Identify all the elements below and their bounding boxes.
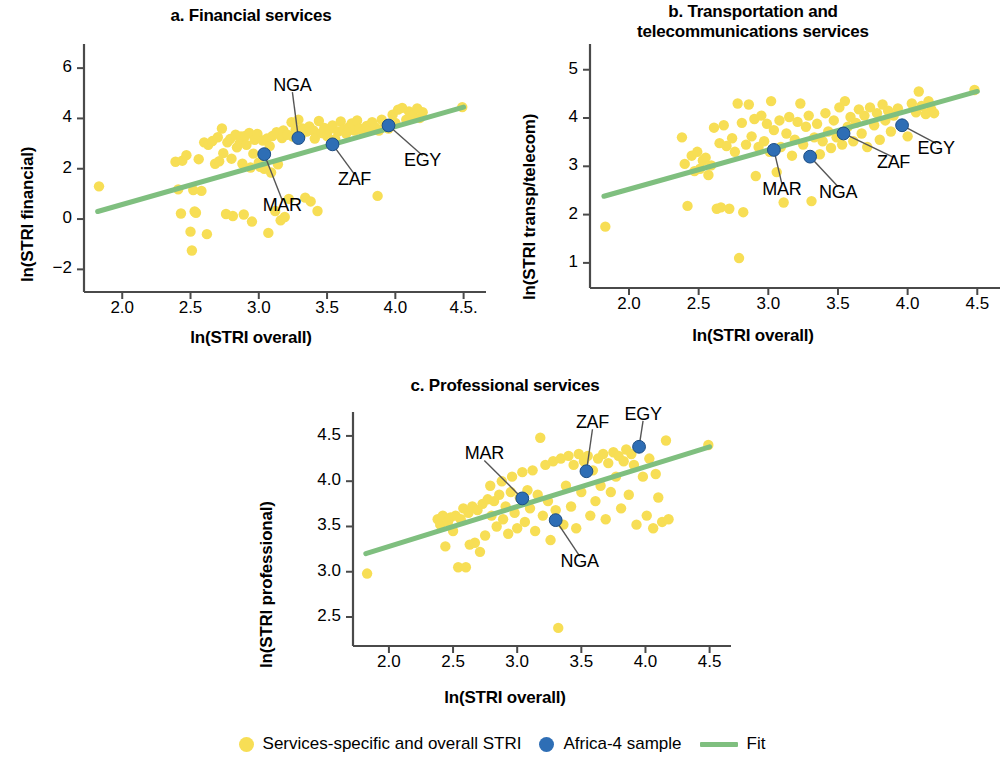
scatter-point-africa4 — [896, 119, 909, 132]
x-tick-label: 2.5 — [161, 298, 221, 318]
scatter-point-services — [196, 186, 206, 196]
scatter-point-services — [566, 501, 576, 511]
scatter-point-africa4 — [292, 132, 305, 145]
scatter-point-services — [194, 154, 204, 164]
x-tick-label: 2.0 — [92, 298, 152, 318]
scatter-point-services — [781, 128, 791, 138]
country-label-egy: EGY — [401, 150, 445, 171]
scatter-point-services — [840, 96, 850, 106]
scatter-point-africa4 — [580, 465, 593, 478]
scatter-point-services — [228, 211, 238, 221]
scatter-point-services — [305, 196, 315, 206]
legend-label-fit: Fit — [747, 734, 766, 754]
scatter-point-services — [530, 526, 540, 536]
x-tick-label: 3.5 — [808, 294, 868, 314]
x-tick-label: 2.5 — [669, 294, 729, 314]
country-label-mar: MAR — [760, 179, 804, 200]
scatter-point-services — [494, 490, 504, 500]
x-tick-label: 2.0 — [599, 294, 659, 314]
scatter-point-services — [829, 115, 839, 125]
scatter-point-services — [506, 487, 516, 497]
scatter-point-services — [769, 125, 779, 135]
x-tick-label: 2.0 — [359, 652, 419, 672]
scatter-point-africa4 — [633, 440, 646, 453]
scatter-point-services — [651, 469, 661, 479]
scatter-point-services — [94, 181, 104, 191]
figure-legend: Services-specific and overall STRI Afric… — [0, 728, 1004, 760]
x-tick-label: 3.0 — [487, 652, 547, 672]
scatter-point-services — [553, 623, 563, 633]
scatter-point-services — [440, 541, 450, 551]
scatter-point-services — [837, 139, 847, 149]
scatter-point-services — [312, 206, 322, 216]
x-tick-label: 4.5 — [947, 294, 1004, 314]
y-tick-label: 2 — [569, 204, 578, 224]
scatter-point-services — [217, 123, 227, 133]
scatter-point-services — [461, 562, 471, 572]
x-tick-label: 4.0 — [615, 652, 675, 672]
scatter-point-services — [571, 523, 581, 533]
scatter-point-africa4 — [326, 138, 339, 151]
x-tick-label: 3.0 — [229, 298, 289, 318]
scatter-point-services — [730, 147, 740, 157]
scatter-point-services — [503, 529, 513, 539]
scatter-point-services — [263, 228, 273, 238]
scatter-point-services — [727, 133, 737, 143]
scatter-point-services — [475, 547, 485, 557]
scatter-point-services — [226, 153, 236, 163]
scatter-point-services — [527, 465, 537, 475]
x-tick-label: 4.0 — [878, 294, 938, 314]
y-tick-label: 3.0 — [317, 561, 341, 581]
scatter-point-services — [719, 120, 729, 130]
scatter-point-services — [638, 471, 648, 481]
scatter-point-services — [603, 458, 613, 468]
scatter-point-services — [517, 467, 527, 477]
scatter-point-services — [663, 514, 673, 524]
scatter-point-africa4 — [516, 492, 529, 505]
scatter-point-services — [759, 136, 769, 146]
scatter-point-services — [362, 568, 372, 578]
scatter-point-services — [738, 207, 748, 217]
legend-item-services-stri: Services-specific and overall STRI — [239, 734, 522, 754]
scatter-point-africa4 — [837, 127, 850, 140]
y-tick-label: 4.5 — [317, 425, 341, 445]
x-tick-label: 4.0 — [365, 298, 425, 318]
x-tick-label: 3.5 — [297, 298, 357, 318]
scatter-point-services — [648, 523, 658, 533]
y-tick-label: 1 — [569, 252, 578, 272]
scatter-point-services — [545, 535, 555, 545]
scatter-point-services — [732, 98, 742, 108]
y-tick-label: 4 — [569, 107, 578, 127]
y-tick-label: 3.5 — [317, 515, 341, 535]
scatter-point-services — [929, 108, 939, 118]
scatter-point-services — [787, 150, 797, 160]
scatter-point-services — [642, 510, 652, 520]
scatter-point-africa4 — [382, 119, 395, 132]
scatter-point-services — [485, 481, 495, 491]
scatter-point-services — [766, 96, 776, 106]
scatter-point-services — [709, 122, 719, 132]
y-tick-label: 3 — [569, 155, 578, 175]
country-label-nga: NGA — [270, 75, 314, 96]
scatter-point-services — [563, 451, 573, 461]
scatter-point-services — [248, 148, 258, 158]
scatter-point-services — [480, 530, 490, 540]
legend-item-fit: Fit — [700, 734, 766, 754]
scatter-point-services — [820, 108, 830, 118]
figure-stri-scatterplots: a. Financial services ln(STRI financial)… — [0, 0, 1004, 765]
y-tick-label: 2.5 — [317, 606, 341, 626]
scatter-point-services — [886, 126, 896, 136]
x-tick-label: 4.5. — [434, 298, 494, 318]
legend-marker-yellow-circle-icon — [239, 737, 254, 752]
x-tick-label: 4.5 — [680, 652, 740, 672]
country-label-egy: EGY — [621, 404, 665, 425]
scatter-point-services — [682, 201, 692, 211]
scatter-point-services — [239, 209, 249, 219]
scatter-point-services — [606, 487, 616, 497]
scatter-point-services — [737, 118, 747, 128]
legend-label-services-stri: Services-specific and overall STRI — [263, 734, 522, 754]
country-label-zaf: ZAF — [570, 412, 614, 433]
scatter-point-services — [598, 449, 608, 459]
y-tick-label: 6 — [63, 57, 72, 77]
scatter-point-services — [618, 456, 628, 466]
